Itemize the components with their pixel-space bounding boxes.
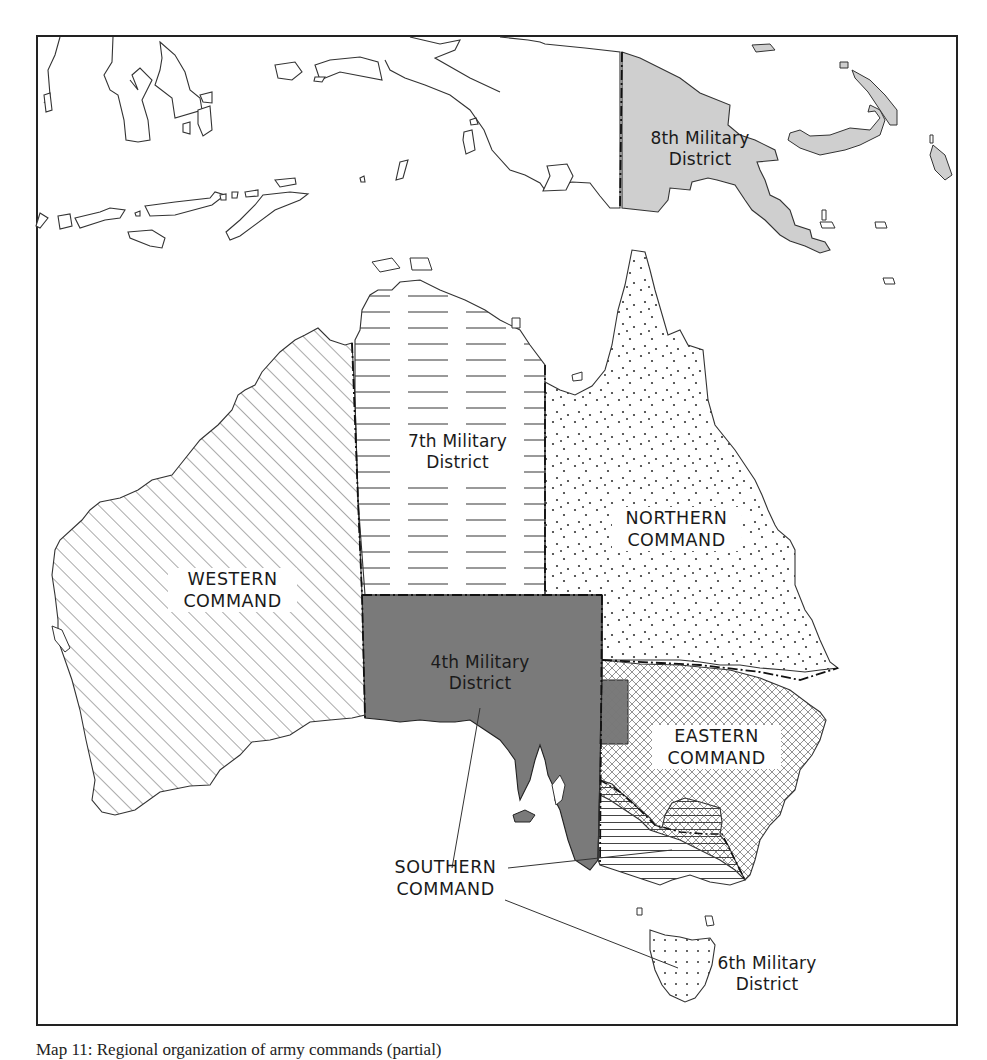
label-eastern-command: EASTERN COMMAND (652, 725, 781, 769)
label-western-command: WESTERN COMMAND (168, 568, 297, 612)
map-caption: Map 11: Regional organization of army co… (36, 1040, 442, 1060)
label-northern-command: NORTHERN COMMAND (612, 507, 741, 551)
new-guinea-west (385, 37, 620, 208)
label-8th-military-district: 8th Military District (645, 128, 755, 170)
northern-islands (36, 37, 500, 248)
label-7th-military-district: 7th Military District (398, 431, 517, 473)
label-6th-military-district: 6th Military District (712, 953, 822, 995)
sixth-military-district-region (650, 930, 715, 1002)
label-4th-military-district: 4th Military District (425, 652, 535, 694)
label-southern-command: SOUTHERN COMMAND (383, 856, 508, 900)
fourth-military-district-region (362, 595, 602, 870)
